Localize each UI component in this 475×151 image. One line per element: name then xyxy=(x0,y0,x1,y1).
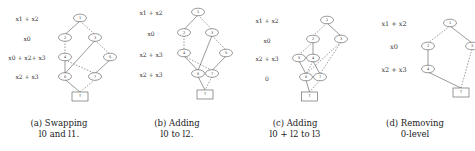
node-label: 6 xyxy=(197,72,199,76)
panel-b: x1 + x2 x0 x2 + x3 x2 + x3 1234567T (b) … xyxy=(118,0,236,151)
node-label: 7 xyxy=(211,72,213,76)
caption-line2: l0 and l1. xyxy=(0,129,118,140)
edge-solid xyxy=(313,61,320,74)
edge-solid xyxy=(212,56,226,71)
edge-solid xyxy=(95,60,110,74)
node-label: 1 xyxy=(197,10,199,14)
bdd-graph: 1234567T xyxy=(0,0,118,110)
node-label: 3 xyxy=(340,37,342,41)
edge-solid xyxy=(450,26,472,43)
edge-solid xyxy=(428,72,461,88)
edge-dashed xyxy=(80,80,95,93)
edge-solid xyxy=(198,77,205,91)
edge-dashed xyxy=(461,49,472,88)
edge-solid xyxy=(299,61,306,74)
caption: (d) Removing 0-level xyxy=(356,118,474,140)
node-label: 3 xyxy=(211,31,213,35)
edge-solid xyxy=(198,36,212,71)
edge-dashed xyxy=(205,77,212,91)
node-label: 1 xyxy=(79,16,81,20)
caption: (b) Adding l0 to l2. xyxy=(118,118,236,140)
panel-c: x1 + x2 x0 x2 + x3 0 1234567T (c) Adding… xyxy=(236,0,354,151)
caption-line1: (a) Swapping xyxy=(0,118,118,129)
node-label: 2 xyxy=(64,36,66,40)
caption: (a) Swapping l0 and l1. xyxy=(0,118,118,140)
node-label: 2 xyxy=(183,31,185,35)
edge-dashed xyxy=(65,60,95,74)
bdd-graph: 1234567T xyxy=(236,0,354,110)
panel-a: x1 + x2 x0 x0 + x2+ x3 x2 + x3 1234567T … xyxy=(0,0,118,151)
edge-dashed xyxy=(310,80,321,92)
node-label: 5 xyxy=(298,56,300,60)
node-label: 1 xyxy=(449,21,451,25)
bdd-graph: 1234T xyxy=(356,0,474,110)
node-label: 3 xyxy=(471,44,473,48)
node-label: 5 xyxy=(225,51,227,55)
caption-line2: l0 to l2. xyxy=(118,129,236,140)
panel-d: x1 + x2 x0 x2 + x3 1234T (d) Removing 0-… xyxy=(356,0,474,151)
edge-dashed xyxy=(313,23,327,36)
edge-solid xyxy=(327,23,341,36)
node-label: 6 xyxy=(305,75,307,79)
caption-line1: (c) Adding xyxy=(236,118,354,129)
node-label: 6 xyxy=(64,75,66,79)
edge-dashed xyxy=(184,56,212,71)
edge-dashed xyxy=(80,21,95,35)
node-label: 5 xyxy=(109,55,111,59)
node-label: 7 xyxy=(319,75,321,79)
edge-dashed xyxy=(299,42,313,55)
bdd-graph: 1234567T xyxy=(118,0,236,110)
edge-dashed xyxy=(212,36,226,51)
caption: (c) Adding l0 + l2 to l3 xyxy=(236,118,354,140)
edge-solid xyxy=(65,21,80,35)
edge-dashed xyxy=(95,41,110,55)
node-label: 2 xyxy=(427,44,429,48)
edge-dashed xyxy=(428,26,450,43)
edge-dashed xyxy=(306,61,313,74)
caption-line1: (b) Adding xyxy=(118,118,236,129)
node-label: 1 xyxy=(326,18,328,22)
edge-dashed xyxy=(198,15,212,30)
edge-solid xyxy=(184,56,198,71)
node-label: 2 xyxy=(312,37,314,41)
caption-line2: 0-level xyxy=(356,129,474,140)
node-label: 7 xyxy=(94,75,96,79)
caption-line1: (d) Removing xyxy=(356,118,474,129)
edge-solid xyxy=(184,15,198,30)
node-label: 3 xyxy=(94,36,96,40)
edge-solid xyxy=(65,80,80,93)
edge-solid xyxy=(306,80,310,92)
edge-dashed xyxy=(320,42,341,74)
caption-line2: l0 + l2 to l3 xyxy=(236,129,354,140)
